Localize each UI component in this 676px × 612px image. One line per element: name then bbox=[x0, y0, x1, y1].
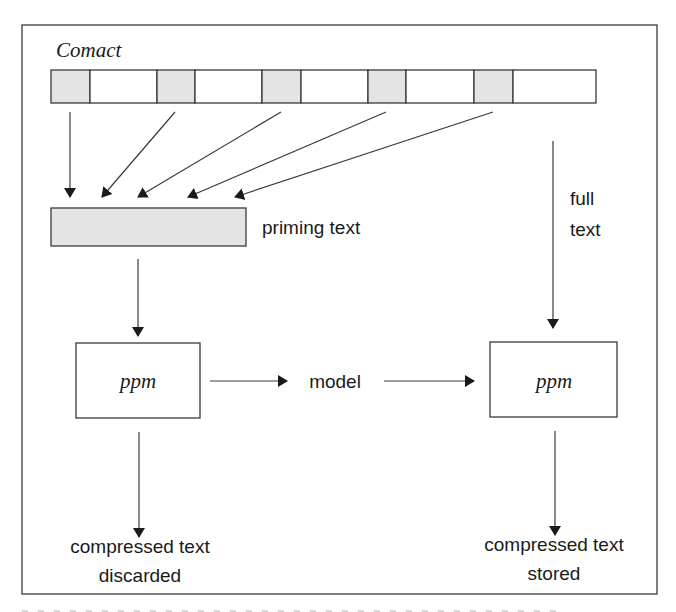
document-strip bbox=[51, 70, 596, 103]
strip-cell bbox=[301, 70, 368, 103]
full-text-label-line1: full bbox=[570, 188, 594, 209]
strip-cell-sampled bbox=[474, 70, 513, 103]
output-right-line1: compressed text bbox=[484, 534, 624, 555]
strip-cell-sampled bbox=[51, 70, 90, 103]
priming-text-label: priming text bbox=[262, 217, 361, 238]
diagram-title: Comact bbox=[56, 38, 122, 62]
arrows-group bbox=[70, 112, 555, 537]
output-left-line2: discarded bbox=[99, 565, 181, 586]
arrow-cell4-to-priming bbox=[188, 112, 386, 197]
full-text-label-line2: text bbox=[570, 219, 601, 240]
arrow-cell5-to-priming bbox=[235, 112, 493, 197]
priming-text-box bbox=[51, 208, 246, 246]
outer-frame bbox=[22, 25, 657, 594]
strip-cell-sampled bbox=[368, 70, 406, 103]
strip-cell bbox=[406, 70, 474, 103]
arrow-cell3-to-priming bbox=[138, 112, 281, 197]
strip-cell-sampled bbox=[262, 70, 301, 103]
ppm-left-label: ppm bbox=[118, 369, 156, 393]
strip-cell bbox=[195, 70, 262, 103]
ppm-right-label: ppm bbox=[534, 369, 572, 393]
strip-cell-sampled bbox=[157, 70, 195, 103]
arrow-cell2-to-priming bbox=[102, 112, 175, 197]
strip-cell bbox=[90, 70, 157, 103]
diagram-canvas: Comact priming text full text ppm ppm mo… bbox=[0, 0, 676, 612]
output-right-line2: stored bbox=[528, 563, 581, 584]
strip-cell bbox=[513, 70, 596, 103]
model-label: model bbox=[309, 371, 361, 392]
diagram-svg: Comact priming text full text ppm ppm mo… bbox=[0, 0, 676, 612]
output-left-line1: compressed text bbox=[70, 536, 210, 557]
